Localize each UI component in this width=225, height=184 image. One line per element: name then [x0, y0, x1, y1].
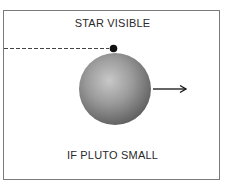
pluto-sphere	[79, 53, 151, 125]
star-dot	[110, 45, 118, 53]
diagram-caption: IF PLUTO SMALL	[0, 149, 225, 161]
motion-arrow-icon	[153, 86, 186, 93]
